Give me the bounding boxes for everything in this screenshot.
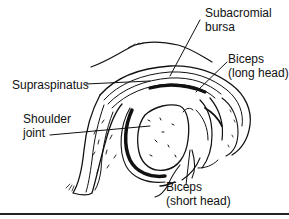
humeral-head	[138, 105, 189, 170]
acromion-outline	[91, 42, 212, 67]
label-biceps-short-head: Biceps (short head)	[166, 180, 231, 208]
label-shoulder-joint: Shoulder joint	[23, 112, 71, 140]
bottom-divider	[0, 213, 289, 215]
glenoid-socket	[126, 110, 165, 176]
label-biceps-long-head: Biceps (long head)	[228, 52, 289, 80]
biceps-short-head-tendon	[192, 150, 195, 178]
scapula-outline	[73, 95, 122, 195]
biceps-long-head-tendon	[200, 100, 212, 168]
label-supraspinatus: Supraspinatus	[12, 78, 89, 92]
label-subacromial-bursa: Subacromial bursa	[205, 6, 272, 34]
